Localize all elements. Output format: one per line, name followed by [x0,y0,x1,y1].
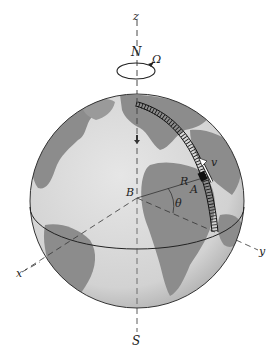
z-axis-label: z [132,10,139,23]
x-axis-label: x [16,267,23,280]
rotating-earth-figure: z N Ω [0,0,275,362]
south-pole-label: S [132,334,140,348]
y-axis-label: y [258,245,266,258]
rotation-arrow-icon [117,62,155,79]
point-a-label: A [189,183,198,196]
y-axis-outer [236,240,258,250]
north-pole-label: N [130,45,142,59]
radius-label: R [179,175,188,188]
x-axis-outer [22,262,40,272]
angular-velocity-label: Ω [151,53,161,66]
angle-theta-label: θ [175,197,182,210]
center-b-label: B [125,186,134,199]
velocity-label: v [211,156,218,169]
